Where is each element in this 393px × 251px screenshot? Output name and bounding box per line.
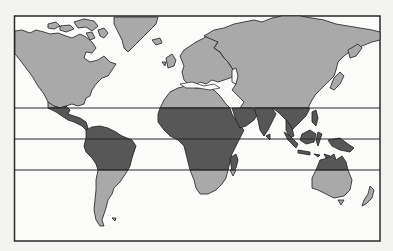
world-map [0, 0, 393, 251]
equator-label: Equator [0, 139, 4, 140]
tropic-of-capricorn-label: Tropic of Capricorn [0, 170, 8, 171]
tropic-of-cancer-label: Tropic of Cancer [0, 108, 7, 109]
